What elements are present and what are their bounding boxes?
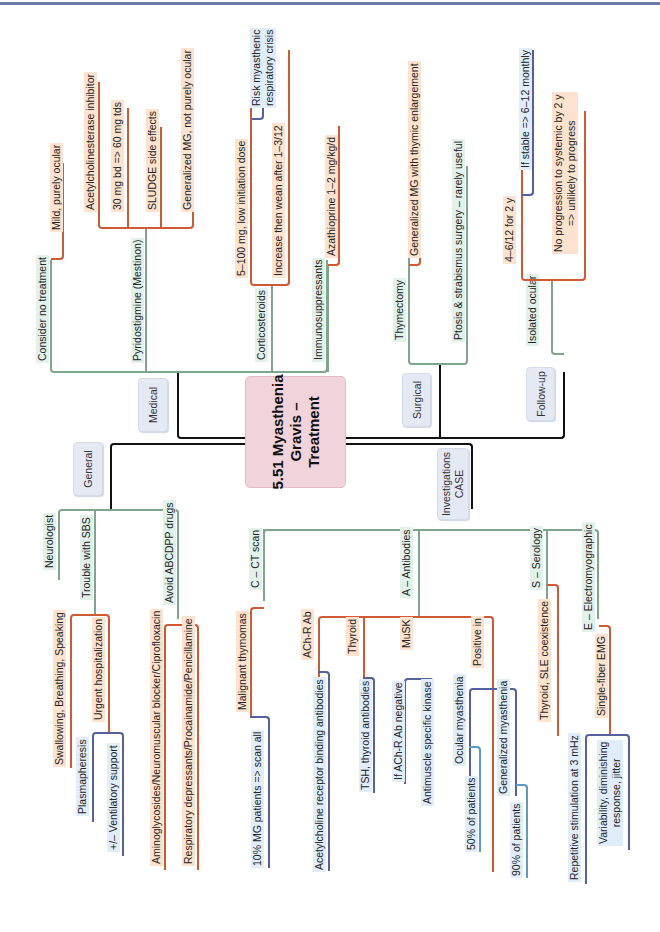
isolated-ocular: Isolated ocular <box>526 274 539 346</box>
single-fiber-emg: Single-fiber EMG <box>595 634 608 718</box>
immunosuppressants: Immunosuppressants <box>312 258 325 362</box>
trouble-with-sbs: Trouble with SBS <box>80 515 93 600</box>
if-achr-negative: If ACh-R Ab negative <box>392 681 405 782</box>
variability-cover <box>628 850 632 890</box>
mild-purely-ocular: Mild, purely ocular <box>50 143 63 232</box>
central-topic-node[interactable]: 5.51 Myasthenia Gravis – Treatment <box>245 376 346 488</box>
plasmapheresis-cover <box>92 822 96 862</box>
thyroid-line <box>363 616 365 678</box>
s-serology: S – Serology <box>530 526 543 590</box>
thymectomy: Thymectomy <box>393 278 406 342</box>
neurologist: Neurologist <box>43 513 56 570</box>
category-follow-up-label: Follow-up <box>534 371 547 417</box>
positive-in: Positive in <box>471 616 484 668</box>
dose-line <box>127 108 129 228</box>
generalized-mg-not-ocular: Generalized MG, not purely ocular <box>181 48 194 212</box>
swallowing-breathing-speaking: Swallowing, Breathing, Speaking <box>53 610 66 767</box>
sludge-line <box>160 127 162 228</box>
pyridostigmine: Pyridostigmine (Mestinon) <box>131 238 144 363</box>
category-follow-up[interactable]: Follow-up <box>526 367 555 421</box>
dose-30-60: 30 mg bd => 60 mg tds <box>111 100 124 212</box>
corticosteroids: Corticosteroids <box>255 288 268 362</box>
ventilatory-support: +/– Ventilatory support <box>107 743 120 852</box>
trunk-upper-line <box>177 372 565 439</box>
ct-line <box>263 529 265 601</box>
aminoglycosides: Aminoglycosides/Neuromuscular blocker/Ci… <box>150 609 163 866</box>
category-investigations[interactable]: Investigations CASE <box>437 448 469 520</box>
scan-all: 10% MG patients => scan all <box>251 730 264 868</box>
thyroid-sle-coexistence: Thyroid, SLE coexistence <box>538 599 551 722</box>
pyridostigmine-line <box>145 228 147 372</box>
antimuscle-specific-kinase: Antimuscle specific kinase <box>421 679 434 806</box>
variability-jitter: Variability, diminishing response, jitte… <box>597 740 623 846</box>
corticosteroids-line <box>271 286 273 372</box>
musk: MuSK <box>400 617 413 650</box>
initiation-dose: 5–100 mg, low initiation dose <box>235 139 248 278</box>
repetitive-stimulation: Repetitive stimulation at 3 mHz <box>568 733 581 882</box>
central-topic-title: 5.51 Myasthenia Gravis – Treatment <box>269 374 323 489</box>
urgent-hospitalization: Urgent hospitalization <box>92 617 105 722</box>
immunosuppressants-line <box>327 264 329 372</box>
generalized-90-pct: 90% of patients <box>510 802 523 878</box>
acetylcholinesterase-inhibitor: Acetylcholinesterase inhibitor <box>84 72 97 212</box>
generalized-mg-thymic: Generalized MG with thymic enlargement <box>408 61 421 258</box>
general-green-bar <box>58 509 179 619</box>
respiratory-depressants: Respiratory depressants/Procainamide/Pen… <box>182 616 195 866</box>
no-progression: No progression to systemic by 2 y => unl… <box>552 92 578 254</box>
category-medical-label: Medical <box>147 387 160 423</box>
antibodies-line <box>418 529 420 617</box>
malignant-thymomas: Malignant thymomas <box>236 611 249 712</box>
musk-cond-cover <box>404 784 408 814</box>
ocular-50-pct: 50% of patients <box>465 776 478 852</box>
generalized-myasthenia: Generalized myasthenia <box>497 679 510 796</box>
risk-respiratory-crisis: Risk myasthenic respiratory crisis <box>250 28 276 108</box>
e-electromyographic: E – Electromyographic <box>582 522 595 632</box>
if-stable-monthly: If stable => 6–12 monthly <box>519 48 532 170</box>
ct-scan: C – CT scan <box>249 528 262 590</box>
category-investigations-label: Investigations CASE <box>440 452 466 516</box>
thyroid: Thyroid <box>346 617 359 656</box>
plasmapheresis: Plasmapheresis <box>76 737 89 816</box>
category-surgical[interactable]: Surgical <box>402 373 431 427</box>
mind-map: 5.51 Myasthenia Gravis – Treatment Medic… <box>0 0 660 932</box>
a-antibodies: A – Antibodies <box>400 527 413 598</box>
ocular-myasthenia: Ocular myasthenia <box>453 674 466 766</box>
sludge-side-effects: SLUDGE side effects <box>146 109 159 212</box>
category-medical[interactable]: Medical <box>138 378 168 432</box>
trunk-surgical-line <box>439 364 441 439</box>
avoid-abcdpp-drugs: Avoid ABCDPP drugs <box>163 500 176 605</box>
category-general-label: General <box>82 450 95 487</box>
category-general[interactable]: General <box>73 442 103 496</box>
consider-no-treatment: Consider no treatment <box>36 255 49 363</box>
follow-up-green-connector <box>551 281 564 355</box>
increase-then-wean: Increase then wean after 1–3/12 <box>272 123 285 278</box>
category-surgical-label: Surgical <box>410 381 423 419</box>
azathioprine: Azathioprine 1–2 mg/kg/d <box>325 135 338 258</box>
tsh-thyroid-antibodies: TSH, thyroid antibodies <box>359 679 372 792</box>
ct-orange-connector <box>250 607 264 717</box>
trouble-sbs-line <box>94 509 96 615</box>
achr-description: Acetylcholine receptor binding antibodie… <box>313 677 326 872</box>
interval-4-6: 4–6/12 for 2 y <box>503 196 516 264</box>
ptosis-strabismus: Ptosis & strabismus surgery – rarely use… <box>452 139 465 342</box>
ach-r-ab: ACh-R Ab <box>301 609 314 660</box>
